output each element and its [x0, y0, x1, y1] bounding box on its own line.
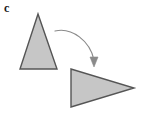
rotation-arrow-head-icon: [90, 57, 98, 67]
figure-canvas: [0, 0, 141, 121]
figure-panel: c: [0, 0, 141, 121]
target-triangle: [71, 69, 134, 107]
rotation-arrow-shaft: [55, 30, 94, 60]
source-triangle: [20, 14, 57, 69]
